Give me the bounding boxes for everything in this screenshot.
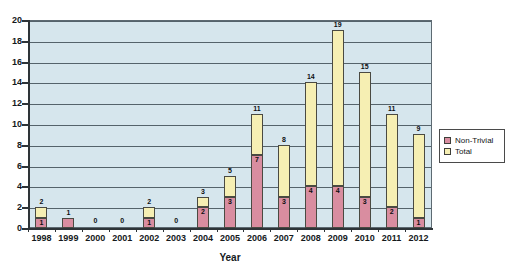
x-tick-label: 1999: [55, 234, 82, 243]
x-tick-label: 2008: [297, 234, 324, 243]
gridline: [29, 83, 431, 84]
bar-value-label-non-trivial: 3: [352, 198, 378, 205]
x-tick-label: 2011: [378, 234, 405, 243]
bar-value-label-total: 15: [352, 63, 378, 70]
bar-value-label-total: 1: [55, 209, 81, 216]
x-tick-mark: [217, 228, 218, 232]
legend-swatch-icon: [444, 137, 451, 144]
bar-segment-total[interactable]: [143, 207, 155, 217]
gridline: [29, 21, 431, 22]
y-tick-mark: [22, 145, 28, 147]
bar-value-label-non-trivial: 4: [298, 187, 324, 194]
x-tick-mark: [270, 228, 271, 232]
chart-legend: Non-Trivial Total: [439, 129, 505, 163]
bar-value-label-total: 3: [190, 188, 216, 195]
y-tick-label: 2: [2, 203, 22, 212]
bar-value-label-non-trivial: 7: [244, 156, 270, 163]
bar-value-label-non-trivial: 2: [190, 208, 216, 215]
x-tick-label: 2002: [136, 234, 163, 243]
y-tick-label: 16: [2, 58, 22, 67]
y-tick-label: 6: [2, 162, 22, 171]
x-tick-label: 2000: [82, 234, 109, 243]
x-axis-line: [28, 228, 433, 230]
bar-segment-non-trivial[interactable]: [62, 218, 74, 228]
x-tick-mark: [109, 228, 110, 232]
x-tick-mark: [297, 228, 298, 232]
bar-value-label-total: 19: [325, 21, 351, 28]
x-tick-label: 2010: [351, 234, 378, 243]
y-tick-mark: [22, 20, 28, 22]
gridline: [29, 146, 431, 147]
legend-swatch-icon: [444, 148, 451, 155]
x-tick-mark: [378, 228, 379, 232]
x-tick-mark: [190, 228, 191, 232]
bar-group[interactable]: [278, 145, 290, 228]
bar-value-label-non-trivial: 1: [28, 219, 54, 226]
y-tick-mark: [22, 166, 28, 168]
bar-segment-total[interactable]: [305, 82, 317, 186]
y-tick-label: 20: [2, 16, 22, 25]
x-tick-mark: [28, 228, 29, 232]
y-tick-label: 4: [2, 182, 22, 191]
y-tick-label: 8: [2, 141, 22, 150]
legend-label: Non-Trivial: [455, 136, 493, 145]
bar-value-label-total: 8: [271, 136, 297, 143]
y-tick-mark: [22, 62, 28, 64]
x-tick-mark: [324, 228, 325, 232]
bar-value-label-total: 9: [406, 125, 432, 132]
x-tick-mark: [163, 228, 164, 232]
bar-value-label-non-trivial: 2: [379, 208, 405, 215]
bar-value-label-total: 2: [28, 198, 54, 205]
x-tick-label: 1998: [28, 234, 55, 243]
legend-label: Total: [455, 147, 472, 156]
x-tick-mark: [82, 228, 83, 232]
bar-group[interactable]: [251, 114, 263, 228]
y-tick-mark: [22, 103, 28, 105]
gridline: [29, 42, 431, 43]
bar-value-label-non-trivial: 3: [271, 198, 297, 205]
bar-segment-total[interactable]: [224, 176, 236, 197]
x-tick-mark: [243, 228, 244, 232]
y-tick-label: 14: [2, 78, 22, 87]
bar-value-label: 0: [82, 217, 108, 224]
y-tick-label: 18: [2, 37, 22, 46]
bar-segment-total[interactable]: [251, 114, 263, 156]
legend-item-total: Total: [444, 147, 500, 156]
x-tick-label: 2007: [270, 234, 297, 243]
bar-segment-total[interactable]: [197, 197, 209, 207]
x-tick-label: 2009: [324, 234, 351, 243]
bar-segment-total[interactable]: [278, 145, 290, 197]
bar-value-label-total: 2: [136, 198, 162, 205]
bar-segment-total[interactable]: [386, 114, 398, 208]
x-tick-label: 2005: [217, 234, 244, 243]
bar-value-label: 0: [109, 217, 135, 224]
gridline: [29, 104, 431, 105]
y-tick-mark: [22, 186, 28, 188]
bar-group[interactable]: [332, 30, 344, 228]
x-tick-label: 2004: [190, 234, 217, 243]
legend-item-non-trivial: Non-Trivial: [444, 136, 500, 145]
y-tick-mark: [22, 207, 28, 209]
bar-segment-total[interactable]: [359, 72, 371, 197]
bar-value-label-non-trivial: 3: [217, 198, 243, 205]
bar-value-label-total: 11: [244, 105, 270, 112]
bar-value-label-non-trivial: 4: [325, 187, 351, 194]
x-tick-label: 2006: [243, 234, 270, 243]
bar-segment-non-trivial[interactable]: [251, 155, 263, 228]
bar-segment-total[interactable]: [332, 30, 344, 186]
x-axis-title: Year: [28, 252, 432, 263]
bar-segment-total[interactable]: [413, 134, 425, 217]
y-tick-label: 10: [2, 120, 22, 129]
gridline: [29, 125, 431, 126]
x-tick-label: 2001: [109, 234, 136, 243]
bar-group[interactable]: [305, 82, 317, 228]
x-tick-label: 2012: [405, 234, 432, 243]
y-tick-label: 12: [2, 99, 22, 108]
bar-segment-total[interactable]: [35, 207, 47, 217]
bar-value-label-total: 11: [379, 105, 405, 112]
bar-group[interactable]: [62, 218, 74, 228]
x-tick-mark: [351, 228, 352, 232]
bar-value-label-total: 14: [298, 73, 324, 80]
bar-value-label-total: 5: [217, 167, 243, 174]
bar-group[interactable]: [413, 134, 425, 228]
